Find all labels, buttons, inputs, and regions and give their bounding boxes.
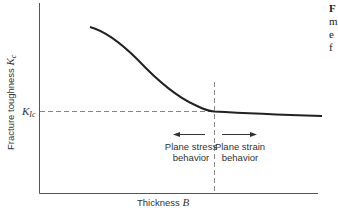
plane-strain-label-line1: Plane strain [215,141,265,152]
fracture-toughness-chart: Fracture toughness Kc KIc Thickness B Pl… [0,0,338,208]
x-axis-label: Thickness B [137,196,189,208]
plane-stress-label-line2: behavior [173,152,209,163]
toughness-curve [90,27,322,116]
caption-line-3: e [329,28,338,41]
plane-stress-arrow-icon [173,132,205,137]
kic-label: KIc [21,105,36,119]
plane-strain-arrow-icon [222,132,257,137]
cropped-caption-text: F m e f [329,2,338,54]
plane-stress-label-line1: Plane stress [165,141,218,152]
plane-strain-label-line2: behavior [222,152,258,163]
caption-line-2: m [329,15,338,28]
caption-line-1: F [329,2,338,15]
y-axis-label: Fracture toughness Kc [4,54,18,150]
caption-line-4: f [329,41,338,54]
